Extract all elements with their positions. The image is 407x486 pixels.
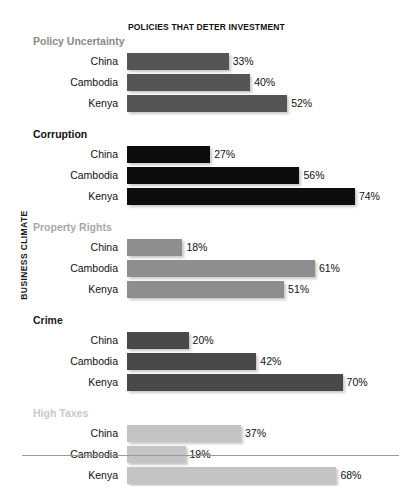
bar-category-label: Kenya (0, 372, 118, 393)
group-spacer (0, 114, 407, 125)
bar-category-label: Kenya (0, 93, 118, 114)
bar-category-label: China (0, 237, 118, 258)
bar-row: China20% (0, 330, 407, 351)
chart-title: POLICIES THAT DETER INVESTMENT (128, 22, 285, 32)
bar-group-header: High Taxes (0, 404, 407, 423)
bar-row: Kenya70% (0, 372, 407, 393)
plot-area: Policy UncertaintyChina33%Cambodia40%Ken… (0, 32, 407, 452)
bar-group-header: Property Rights (0, 218, 407, 237)
bar-category-label: Cambodia (0, 72, 118, 93)
bar-group: Property RightsChina18%Cambodia61%Kenya5… (0, 218, 407, 300)
bar-group-rows: China27%Cambodia56%Kenya74% (0, 144, 407, 207)
group-spacer (0, 300, 407, 311)
bar-row: Cambodia56% (0, 165, 407, 186)
bar-track: 27% (127, 146, 407, 163)
bar-group-header: Corruption (0, 125, 407, 144)
bar (127, 146, 210, 163)
bar-category-label: China (0, 330, 118, 351)
bar-value-label: 70% (343, 374, 368, 391)
bar (127, 281, 284, 298)
bar (127, 74, 250, 91)
group-spacer (0, 207, 407, 218)
bar-track: 51% (127, 281, 407, 298)
bar (127, 53, 229, 70)
bar (127, 239, 182, 256)
bar-group-rows: China18%Cambodia61%Kenya51% (0, 237, 407, 300)
bar-value-label: 18% (182, 239, 207, 256)
bar-track: 68% (127, 467, 407, 484)
bar-row: Kenya68% (0, 465, 407, 486)
bar-track: 20% (127, 332, 407, 349)
bar (127, 467, 336, 484)
bar-category-label: Cambodia (0, 351, 118, 372)
bar-row: Kenya51% (0, 279, 407, 300)
bar-row: Kenya52% (0, 93, 407, 114)
bar-group-rows: China33%Cambodia40%Kenya52% (0, 51, 407, 114)
bar-row: China37% (0, 423, 407, 444)
bar (127, 95, 287, 112)
bar (127, 167, 299, 184)
bar-track: 56% (127, 167, 407, 184)
bar-value-label: 74% (355, 188, 380, 205)
bar (127, 353, 256, 370)
bar-category-label: Kenya (0, 465, 118, 486)
bar-value-label: 68% (336, 467, 361, 484)
bar-value-label: 37% (241, 425, 266, 442)
bar (127, 188, 355, 205)
bar-group: CrimeChina20%Cambodia42%Kenya70% (0, 311, 407, 393)
bar-track: 70% (127, 374, 407, 391)
bar-row: China18% (0, 237, 407, 258)
bar-row: Cambodia40% (0, 72, 407, 93)
bar-group: CorruptionChina27%Cambodia56%Kenya74% (0, 125, 407, 207)
bar-category-label: China (0, 144, 118, 165)
bar-group-header: Crime (0, 311, 407, 330)
bar-value-label: 42% (256, 353, 281, 370)
bar-value-label: 52% (287, 95, 312, 112)
group-spacer (0, 393, 407, 404)
bottom-divider (22, 455, 399, 456)
bar-group-header: Policy Uncertainty (0, 32, 407, 51)
bar-value-label: 61% (315, 260, 340, 277)
bar-track: 52% (127, 95, 407, 112)
bar-row: China33% (0, 51, 407, 72)
bar-row: China27% (0, 144, 407, 165)
bar-track: 42% (127, 353, 407, 370)
bar-group: High TaxesChina37%Cambodia19%Kenya68% (0, 404, 407, 486)
bar-row: Kenya74% (0, 186, 407, 207)
bar-category-label: Cambodia (0, 258, 118, 279)
bar-value-label: 40% (250, 74, 275, 91)
bar-category-label: Cambodia (0, 165, 118, 186)
bar-value-label: 20% (189, 332, 214, 349)
bar (127, 260, 315, 277)
bar-value-label: 27% (210, 146, 235, 163)
bar-track: 40% (127, 74, 407, 91)
bar-group: Policy UncertaintyChina33%Cambodia40%Ken… (0, 32, 407, 114)
bar-track: 61% (127, 260, 407, 277)
bar-track: 33% (127, 53, 407, 70)
bar-group-rows: China20%Cambodia42%Kenya70% (0, 330, 407, 393)
bar-row: Cambodia42% (0, 351, 407, 372)
bar-category-label: Kenya (0, 186, 118, 207)
bar-track: 74% (127, 188, 407, 205)
bar-category-label: China (0, 423, 118, 444)
bar (127, 332, 189, 349)
bar (127, 374, 343, 391)
bar-value-label: 56% (299, 167, 324, 184)
bar-category-label: China (0, 51, 118, 72)
bar-track: 37% (127, 425, 407, 442)
bar-category-label: Kenya (0, 279, 118, 300)
bar-track: 18% (127, 239, 407, 256)
bar-value-label: 51% (284, 281, 309, 298)
bar (127, 425, 241, 442)
bar-value-label: 33% (229, 53, 254, 70)
bar-row: Cambodia61% (0, 258, 407, 279)
